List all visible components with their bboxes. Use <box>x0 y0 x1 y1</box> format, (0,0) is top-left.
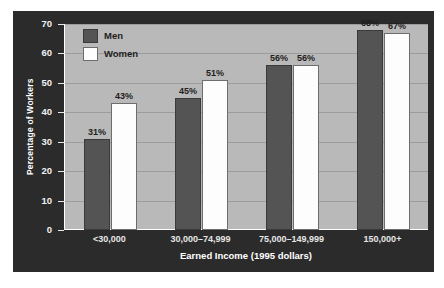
chart-legend: Men Women <box>83 28 203 64</box>
bar-value-label: 51% <box>196 68 234 78</box>
y-axis-tick <box>58 230 64 231</box>
bar-value-label: 67% <box>378 21 416 31</box>
x-axis-category-label: 150,000+ <box>337 234 428 244</box>
legend-label-men: Men <box>104 30 123 41</box>
bar-women-3 <box>293 65 319 230</box>
y-axis-tick-label: 50 <box>26 78 52 88</box>
plot-area: 31%43%45%51%56%56%68%67% Men Women <box>64 24 428 230</box>
bar-value-label: 56% <box>287 53 325 63</box>
y-axis-tick-label: 0 <box>26 225 52 235</box>
y-axis-title: Percentage of Workers <box>25 78 35 175</box>
legend-label-women: Women <box>104 48 138 59</box>
legend-swatch-men <box>83 29 98 43</box>
bar-men-3 <box>266 65 292 230</box>
y-axis-tick-label: 40 <box>26 107 52 117</box>
bar-men-4 <box>357 30 383 230</box>
bar-chart-figure: Percentage of Workers 010203040506070 31… <box>0 0 444 288</box>
bar-men-2 <box>175 98 201 230</box>
bar-women-1 <box>111 103 137 230</box>
x-axis-category-label: 30,000–74,999 <box>155 234 246 244</box>
legend-item-men: Men <box>83 28 203 46</box>
bar-women-4 <box>384 33 410 230</box>
x-axis-category-label: 75,000–149,999 <box>246 234 337 244</box>
x-axis-title: Earned Income (1995 dollars) <box>64 250 428 261</box>
bar-women-2 <box>202 80 228 230</box>
chart-panel: Percentage of Workers 010203040506070 31… <box>13 11 434 272</box>
legend-swatch-women <box>83 47 98 61</box>
y-axis-tick-label: 20 <box>26 166 52 176</box>
legend-item-women: Women <box>83 46 203 64</box>
y-axis-tick-label: 60 <box>26 48 52 58</box>
bar-value-label: 43% <box>105 91 143 101</box>
y-axis-tick-label: 30 <box>26 137 52 147</box>
x-axis-category-label: <30,000 <box>64 234 155 244</box>
bar-men-1 <box>84 139 110 230</box>
y-axis-tick-label: 70 <box>26 19 52 29</box>
y-axis-tick-label: 10 <box>26 196 52 206</box>
